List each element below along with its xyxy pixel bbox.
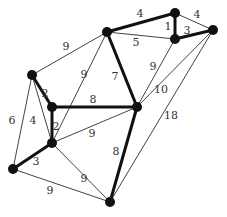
edge-B-H [52, 32, 107, 143]
edge-weight-label: 9 [89, 127, 96, 140]
edge-weight-label: 8 [113, 145, 120, 158]
edge-weight-label: 10 [154, 83, 168, 96]
edge-weight-label: 9 [63, 40, 70, 53]
node-D [170, 34, 180, 44]
weighted-graph: 44135997910182829643989 [0, 0, 227, 217]
edge-A-B [32, 32, 107, 75]
edge-weight-label: 3 [184, 24, 191, 37]
node-J [105, 197, 115, 207]
edge-weight-label: 3 [33, 155, 40, 168]
edge-D-G [137, 39, 175, 107]
edge-B-D [107, 32, 175, 39]
edge-E-J [110, 30, 213, 202]
edge-D-E [175, 30, 213, 39]
edge-weight-label: 2 [53, 120, 60, 133]
node-C [170, 8, 180, 18]
edge-weight-label: 9 [81, 172, 88, 185]
edge-weight-label: 4 [30, 114, 37, 127]
edge-weight-label: 7 [112, 70, 119, 83]
edge-weight-label: 9 [150, 60, 157, 73]
node-B [102, 27, 112, 37]
edge-weight-label: 1 [165, 20, 172, 33]
node-G [132, 102, 142, 112]
edge-weight-label: 9 [47, 184, 54, 197]
edge-I-J [13, 169, 110, 202]
node-A [27, 70, 37, 80]
node-E [208, 25, 218, 35]
node-H [47, 138, 57, 148]
edge-weight-label: 4 [194, 8, 201, 21]
edge-weight-label: 4 [137, 7, 144, 20]
edge-weight-label: 9 [81, 68, 88, 81]
edge-weight-label: 6 [9, 114, 16, 127]
edge-weight-label: 2 [42, 87, 49, 100]
edge-weight-label: 8 [90, 93, 97, 106]
node-I [8, 164, 18, 174]
edge-weight-label: 18 [164, 109, 178, 122]
edge-weight-label: 5 [133, 36, 140, 49]
node-F [47, 102, 57, 112]
